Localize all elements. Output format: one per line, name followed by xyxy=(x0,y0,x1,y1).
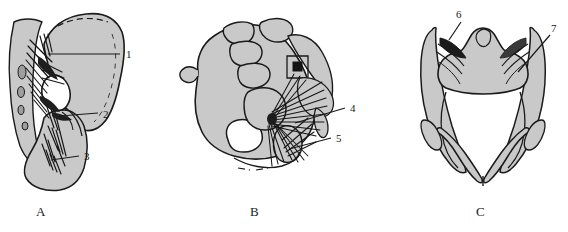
anatomy-figure: 1 2 3 xyxy=(0,0,568,232)
label-3: 3 xyxy=(84,150,90,162)
panel-c-drawing xyxy=(421,28,546,186)
label-4: 4 xyxy=(350,102,356,114)
panel-b-drawing xyxy=(180,19,334,170)
panel-c-sacral-crest xyxy=(476,29,491,47)
panel-b-sacrum xyxy=(244,88,286,130)
anatomy-illustration-svg: 1 2 3 xyxy=(0,0,568,232)
panel-b-sacral-foramen xyxy=(293,62,302,71)
label-6: 6 xyxy=(456,8,462,20)
panel-b-pubic-dashes xyxy=(238,168,268,170)
panel-b-ligament-origin xyxy=(267,113,277,125)
panel-a-drawing xyxy=(9,14,124,191)
panel-b-asis-notch xyxy=(180,67,198,83)
label-5: 5 xyxy=(336,132,342,144)
panel-caption-c: C xyxy=(476,204,485,220)
panel-caption-b: B xyxy=(250,204,259,220)
panel-caption-a: A xyxy=(36,204,46,220)
label-2: 2 xyxy=(103,108,109,120)
panel-b-vertebra-l2 xyxy=(230,41,262,66)
leader-line-6 xyxy=(449,22,461,40)
panel-b-vertebra-l3 xyxy=(238,63,270,88)
label-7: 7 xyxy=(551,22,557,34)
label-1: 1 xyxy=(126,48,132,60)
